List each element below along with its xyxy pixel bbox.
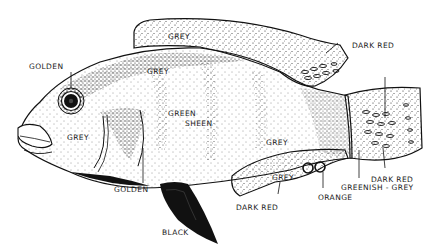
label-grey-dorsal-fin: GREY (168, 33, 190, 41)
eye (58, 88, 84, 114)
label-golden-bottom: GOLDEN (114, 186, 148, 194)
label-grey-upper-body: GREY (147, 68, 169, 76)
label-dark-red-anal: DARK RED (236, 204, 278, 212)
label-dark-red-dorsal: DARK RED (352, 42, 394, 50)
label-orange: ORANGE (318, 194, 353, 202)
label-grey-head: GREY (67, 134, 89, 142)
label-golden-top: GOLDEN (29, 63, 63, 71)
label-grey-anal-fin: GREY (272, 174, 294, 182)
label-black: BLACK (162, 229, 189, 237)
label-green-sheen-line2: SHEEN (185, 120, 213, 128)
fish-illustration (0, 0, 433, 251)
label-greenish-grey: GREENISH - GREY (341, 184, 414, 192)
fish-coloration-diagram: GOLDEN GREY GREY DARK RED GREY GREEN SHE… (0, 0, 433, 251)
label-green-sheen-line1: GREEN (168, 110, 196, 118)
label-grey-mid-body: GREY (266, 139, 288, 147)
